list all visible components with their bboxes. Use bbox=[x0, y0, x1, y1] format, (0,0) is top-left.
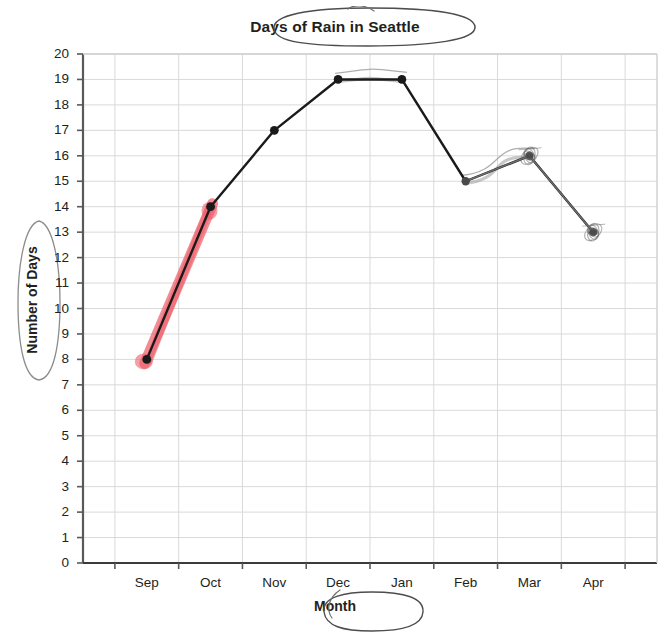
y-tick-label-15: 15 bbox=[29, 174, 69, 188]
y-tick-label-9: 9 bbox=[29, 327, 69, 341]
y-tick-label-6: 6 bbox=[29, 403, 69, 417]
chart-canvas: Days of Rain in Seattle Month Number of … bbox=[0, 0, 670, 644]
data-point-marker-nov[interactable] bbox=[270, 126, 279, 135]
y-tick-label-20: 20 bbox=[29, 47, 69, 61]
y-tick-label-7: 7 bbox=[29, 378, 69, 392]
x-tick-label-dec: Dec bbox=[303, 576, 373, 590]
y-tick-label-2: 2 bbox=[29, 505, 69, 519]
y-tick-label-14: 14 bbox=[29, 200, 69, 214]
x-tick-label-feb: Feb bbox=[431, 576, 501, 590]
x-tick-label-sep: Sep bbox=[112, 576, 182, 590]
y-tick-label-18: 18 bbox=[29, 98, 69, 112]
y-tick-label-0: 0 bbox=[29, 556, 69, 570]
y-tick-label-17: 17 bbox=[29, 123, 69, 137]
x-tick-label-nov: Nov bbox=[239, 576, 309, 590]
y-tick-label-10: 10 bbox=[29, 302, 69, 316]
data-point-marker-oct[interactable] bbox=[206, 202, 215, 211]
y-tick-label-5: 5 bbox=[29, 429, 69, 443]
data-point-marker-feb[interactable] bbox=[461, 177, 469, 185]
data-line-path-light bbox=[466, 156, 594, 232]
y-tick-label-4: 4 bbox=[29, 454, 69, 468]
plot-area bbox=[0, 0, 670, 644]
data-point-marker-jan[interactable] bbox=[397, 75, 406, 84]
y-tick-label-16: 16 bbox=[29, 149, 69, 163]
data-point-marker-sep[interactable] bbox=[142, 355, 151, 364]
axis-tick-marks bbox=[77, 54, 625, 569]
y-tick-label-19: 19 bbox=[29, 72, 69, 86]
x-tick-label-jan: Jan bbox=[367, 576, 437, 590]
x-tick-label-mar: Mar bbox=[494, 576, 564, 590]
red-highlight-annotation bbox=[135, 202, 218, 370]
y-tick-label-3: 3 bbox=[29, 480, 69, 494]
x-tick-label-oct: Oct bbox=[176, 576, 246, 590]
y-tick-label-11: 11 bbox=[29, 276, 69, 290]
y-tick-label-13: 13 bbox=[29, 225, 69, 239]
y-tick-label-8: 8 bbox=[29, 352, 69, 366]
x-tick-label-apr: Apr bbox=[558, 576, 628, 590]
data-point-marker-dec[interactable] bbox=[334, 75, 343, 84]
y-tick-label-1: 1 bbox=[29, 531, 69, 545]
pencil-trace-dec-to-jan bbox=[335, 69, 407, 73]
y-tick-label-12: 12 bbox=[29, 251, 69, 265]
plot-svg bbox=[0, 0, 670, 644]
